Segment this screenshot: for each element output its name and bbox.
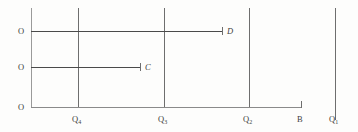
x-label-q4-sub: 4 <box>78 119 81 125</box>
x-label-b: B <box>297 115 303 124</box>
horizontal-segment-d <box>31 31 222 32</box>
segment-d-end-tick <box>222 27 223 35</box>
y-label-origin-bottom: O <box>18 103 24 112</box>
y-label-origin-mid: O <box>18 63 24 72</box>
vertical-line-q3 <box>164 8 165 107</box>
y-label-origin-top: O <box>18 27 24 36</box>
x-label-q2: Q2 <box>243 115 252 124</box>
x-label-q1-sub: 1 <box>335 119 338 125</box>
curve-label-c: C <box>145 63 151 72</box>
x-label-q1: Q1 <box>329 115 338 124</box>
x-axis-end-tick <box>301 101 302 108</box>
x-label-q4: Q4 <box>72 115 81 124</box>
curve-label-d: D <box>227 27 233 36</box>
segment-c-end-tick <box>140 63 141 71</box>
vertical-line-q2 <box>249 8 250 107</box>
economics-diagram: O O O Q4 Q3 Q2 B Q1 D C <box>0 0 358 132</box>
x-label-q2-sub: 2 <box>249 119 252 125</box>
horizontal-segment-c <box>31 67 140 68</box>
vertical-line-q1 <box>335 8 336 120</box>
x-label-q3: Q3 <box>158 115 167 124</box>
y-axis <box>31 8 32 108</box>
vertical-line-q4 <box>78 8 79 107</box>
x-label-q3-sub: 3 <box>164 119 167 125</box>
x-axis <box>31 107 302 108</box>
